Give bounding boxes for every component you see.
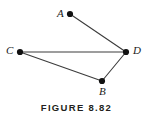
figure-caption: FIGURE 8.82	[0, 102, 153, 113]
vertex-label-a: A	[57, 8, 64, 19]
graph-diagram	[0, 0, 153, 100]
vertex-label-d: D	[133, 45, 141, 56]
vertex-label-c: C	[6, 45, 13, 56]
graph-edge-cb	[20, 52, 102, 81]
vertex-layer	[17, 11, 129, 84]
vertex-label-b: B	[99, 86, 106, 97]
graph-vertex-c	[17, 49, 23, 55]
graph-vertex-a	[67, 11, 73, 17]
edge-layer	[20, 14, 126, 81]
graph-edge-ad	[70, 14, 126, 52]
graph-edge-bd	[102, 52, 126, 81]
graph-vertex-b	[99, 78, 105, 84]
graph-vertex-d	[123, 49, 129, 55]
figure-container: ABCD FIGURE 8.82	[0, 0, 153, 120]
